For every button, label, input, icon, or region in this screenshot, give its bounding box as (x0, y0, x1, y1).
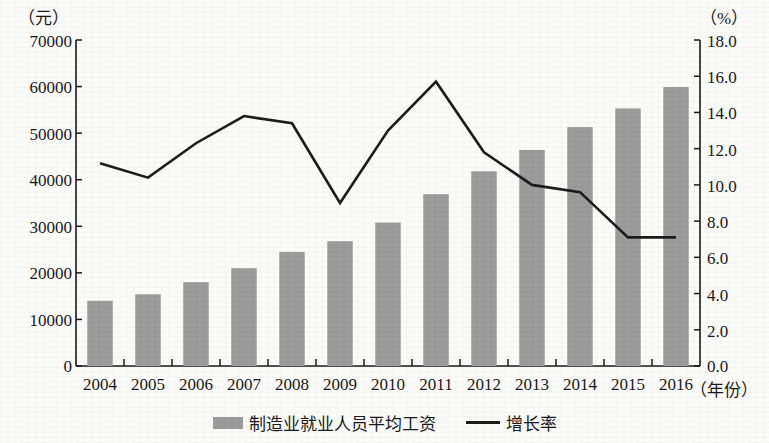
x-tick-2010: 2010 (362, 376, 414, 393)
x-tick-2009: 2009 (314, 376, 366, 393)
bar-2012 (471, 171, 496, 366)
x-tick-2004: 2004 (74, 376, 126, 393)
x-tick-2014: 2014 (554, 376, 606, 393)
legend-bar-label: 制造业就业人员平均工资 (249, 410, 436, 435)
x-axis-unit-label: （年份） (690, 376, 758, 401)
bar-2006 (183, 282, 208, 366)
x-tick-2005: 2005 (122, 376, 174, 393)
legend-entry-line: 增长率 (466, 410, 557, 435)
chart-legend: 制造业就业人员平均工资 增长率 (0, 410, 769, 435)
legend-line-label: 增长率 (506, 410, 557, 435)
bar-2014 (567, 127, 592, 366)
x-tick-2011: 2011 (410, 376, 462, 393)
bar-2004 (87, 301, 112, 366)
x-tick-2015: 2015 (602, 376, 654, 393)
bar-2008 (279, 252, 304, 366)
x-tick-2006: 2006 (170, 376, 222, 393)
x-tick-2012: 2012 (458, 376, 510, 393)
bar-2005 (135, 294, 160, 366)
bar-2016 (663, 87, 688, 366)
bar-2011 (423, 194, 448, 366)
legend-entry-bar: 制造业就业人员平均工资 (213, 410, 436, 435)
chart-container: （元） （%） 70000 60000 50000 40000 30000 20… (0, 0, 769, 443)
bar-2013 (519, 150, 544, 366)
bar-2009 (327, 241, 352, 366)
bar-2010 (375, 223, 400, 366)
x-tick-2013: 2013 (506, 376, 558, 393)
x-tick-2008: 2008 (266, 376, 318, 393)
x-tick-2007: 2007 (218, 376, 270, 393)
legend-bar-swatch-icon (213, 417, 243, 429)
bar-2007 (231, 268, 256, 366)
legend-line-swatch-icon (466, 421, 500, 424)
x-axis-tick-labels: 2004200520062007200820092010201120122013… (0, 374, 769, 402)
